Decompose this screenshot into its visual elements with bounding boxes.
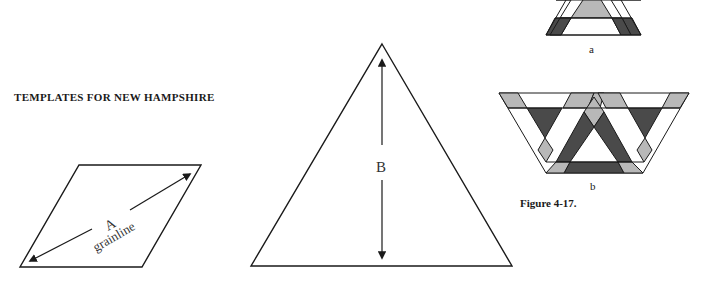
templates-illustration: A grainline B [0,0,701,282]
figure-caption: Figure 4-17. [520,197,577,209]
grainline-arrow-upper [130,174,190,210]
template-b-triangle: B [251,44,512,266]
figure-b-block [499,93,689,173]
figure-a-block [546,0,641,35]
figure-subcaption-b: b [590,180,596,192]
template-a-parallelogram: A grainline [20,165,201,267]
template-b-letter: B [376,159,386,175]
figure-subcaption-a: a [589,43,594,55]
